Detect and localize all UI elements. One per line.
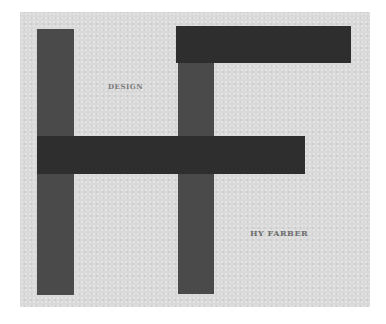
middle-vertical-bar xyxy=(178,62,214,294)
design-label: DESIGN xyxy=(108,82,143,91)
author-label: HY FARBER xyxy=(250,228,308,238)
artwork-canvas: DESIGN HY FARBER xyxy=(0,0,386,324)
middle-horizontal-bar xyxy=(37,136,305,174)
top-horizontal-bar xyxy=(176,26,351,63)
